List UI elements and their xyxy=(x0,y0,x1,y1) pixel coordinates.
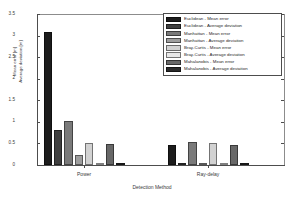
legend-item[interactable]: Bray-Curtis - Average deviation xyxy=(166,51,278,58)
bar xyxy=(188,142,196,165)
y-tick-mark-right xyxy=(281,122,284,123)
x-tick-label: Ray-delay xyxy=(178,172,238,177)
legend-label: Mahalanobis - Average deviation xyxy=(184,67,248,71)
bar xyxy=(178,163,186,165)
axis-right xyxy=(284,14,285,166)
legend-swatch xyxy=(166,38,181,43)
legend-label: Manhattan - Mean error xyxy=(184,32,230,36)
bar xyxy=(199,163,207,165)
legend-item[interactable]: Manhattan - Average deviation xyxy=(166,37,278,44)
legend: Euclidean - Mean errorEuclidean - Averag… xyxy=(163,13,282,76)
legend-swatch xyxy=(166,52,181,57)
legend-label: Mahalanobis - Mean error xyxy=(184,60,234,64)
legend-swatch xyxy=(166,45,181,50)
y-tick-mark-right xyxy=(281,100,284,101)
y-tick-mark xyxy=(37,165,40,166)
legend-item[interactable]: Bray-Curtis - Mean error xyxy=(166,44,278,51)
legend-label: Euclidean - Average deviation xyxy=(184,24,242,28)
bar xyxy=(209,143,217,165)
y-tick-mark-right xyxy=(281,143,284,144)
y-axis-label-line2: Average deviation [m] xyxy=(17,12,23,112)
legend-item[interactable]: Mahalanobis - Mean error xyxy=(166,59,278,66)
legend-swatch xyxy=(166,67,181,72)
x-axis-label: Detection Method xyxy=(0,184,304,190)
x-tick-mark xyxy=(84,165,85,168)
bar xyxy=(240,163,248,165)
x-tick-label: Power xyxy=(54,172,114,177)
y-tick-mark-right xyxy=(281,165,284,166)
bar xyxy=(168,145,176,165)
legend-label: Manhattan - Average deviation xyxy=(184,39,243,43)
legend-label: Bray-Curtis - Mean error xyxy=(184,46,231,50)
legend-label: Bray-Curtis - Average deviation xyxy=(184,53,245,57)
legend-swatch xyxy=(166,17,181,22)
legend-item[interactable]: Manhattan - Mean error xyxy=(166,30,278,37)
bar xyxy=(220,163,228,165)
legend-label: Euclidean - Mean error xyxy=(184,17,229,21)
bar xyxy=(230,145,238,165)
legend-swatch xyxy=(166,31,181,36)
x-tick-mark xyxy=(208,165,209,168)
y-axis-label: Mean error [m] Average deviation [m] xyxy=(12,12,23,112)
legend-item[interactable]: Euclidean - Average deviation xyxy=(166,23,278,30)
legend-swatch xyxy=(166,60,181,65)
legend-item[interactable]: Mahalanobis - Average deviation xyxy=(166,66,278,73)
y-tick-mark-right xyxy=(281,79,284,80)
legend-item[interactable]: Euclidean - Mean error xyxy=(166,16,278,23)
legend-swatch xyxy=(166,24,181,29)
figure: 00.511.522.533.5 PowerRay-delay Mean err… xyxy=(0,0,304,204)
axis-bottom xyxy=(37,165,285,166)
